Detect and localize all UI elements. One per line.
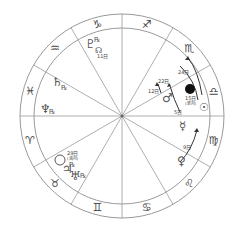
saturn-group: ♄ ℞ (52, 75, 67, 92)
neptune-group: ♆ ℞ (40, 102, 55, 116)
pluto-group: ♇ ℞ ☊ 11日 (85, 36, 108, 60)
sagittarius-icon: ♐ (142, 18, 152, 31)
aquarius-icon: ♒ (50, 42, 60, 55)
retrograde-icon: ℞ (80, 172, 86, 180)
pisces-icon: ♓ (25, 85, 35, 98)
house-divider (122, 116, 173, 204)
mercury-icon: ☿ (179, 119, 186, 133)
node-label: 11日 (97, 53, 108, 60)
house-divider (122, 116, 210, 167)
aries-icon: ♈ (25, 134, 35, 147)
retrograde-icon: ℞ (49, 108, 55, 116)
mercury-label: 5日 (174, 109, 182, 116)
taurus-icon: ♉ (50, 177, 60, 190)
retrograde-icon: ℞ (69, 161, 75, 169)
retrograde-icon: ℞ (94, 36, 100, 44)
mars-label-2: 22日 (158, 78, 169, 85)
astrology-chart: ♈♉♊♋♌♍♎♏♐♑♒♓ ♇ ℞ ☊ 11日 ♄ ℞ ♆ ℞ 12日 22日 ♂… (0, 0, 235, 234)
center-dot (121, 115, 124, 118)
mars-icon: ♂ (162, 91, 173, 105)
venus-label: 9日 (183, 144, 191, 151)
house-divider (71, 116, 122, 204)
venus-icon: ♀ (177, 154, 186, 168)
sun-label: 24日 (178, 69, 189, 76)
sun-icon: ☉ (199, 101, 209, 114)
new-moon-icon (185, 84, 195, 94)
virgo-icon: ♍ (209, 134, 219, 147)
leo-icon: ♌ (184, 177, 194, 190)
libra-icon: ♎ (209, 85, 219, 98)
scorpio-icon: ♏ (184, 42, 194, 55)
gemini-icon: ♊ (92, 201, 102, 214)
capricorn-icon: ♑ (92, 18, 102, 31)
mars-label-1: 12日 (148, 88, 159, 95)
new-moon-sub: (新月) (185, 100, 197, 106)
cancer-icon: ♋ (142, 201, 152, 214)
retrograde-icon: ℞ (61, 84, 67, 92)
